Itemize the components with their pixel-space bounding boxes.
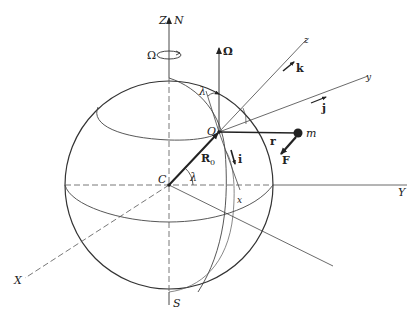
label-y: y bbox=[365, 72, 372, 82]
label-i: i bbox=[238, 153, 242, 166]
label-x: x bbox=[237, 195, 242, 205]
projection-line bbox=[169, 185, 333, 266]
point-c bbox=[167, 183, 171, 187]
label-Z: Z bbox=[158, 14, 167, 27]
label-r: r bbox=[270, 135, 276, 148]
point-o bbox=[217, 130, 221, 134]
label-omega-rotation: Ω bbox=[147, 49, 156, 62]
label-k: k bbox=[296, 62, 304, 75]
lambda-arc-top bbox=[208, 93, 219, 96]
label-N: N bbox=[173, 14, 184, 27]
f-vector bbox=[281, 137, 296, 154]
label-m: m bbox=[306, 127, 316, 140]
k-unit-vector bbox=[283, 62, 294, 71]
i-unit-vector bbox=[231, 150, 235, 164]
meridian-2 bbox=[169, 150, 234, 292]
label-C: C bbox=[158, 173, 167, 186]
r-vector bbox=[219, 132, 298, 133]
x-axis bbox=[25, 185, 169, 278]
label-X: X bbox=[13, 274, 23, 287]
label-lambda-top: λ bbox=[198, 85, 206, 98]
mass-point bbox=[294, 129, 303, 138]
label-z: z bbox=[303, 35, 309, 45]
label-F: F bbox=[282, 154, 290, 167]
label-R0-sub: 0 bbox=[210, 158, 215, 167]
latitude-circle bbox=[97, 107, 219, 140]
label-S: S bbox=[173, 297, 181, 310]
label-j: j bbox=[321, 102, 326, 115]
local-y-axis bbox=[219, 76, 368, 132]
local-x-axis bbox=[219, 132, 240, 190]
label-omega-vector: Ω bbox=[223, 45, 233, 58]
label-Y: Y bbox=[398, 186, 407, 199]
label-O: O bbox=[207, 125, 216, 138]
earth-frame-diagram: Z N Ω Ω λ O C R 0 λ i x z k y j r m F Y … bbox=[0, 0, 418, 323]
label-lambda-center: λ bbox=[189, 171, 197, 184]
